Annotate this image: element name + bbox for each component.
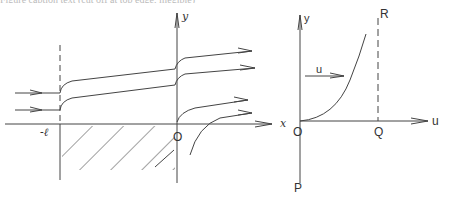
origin-label-left: O xyxy=(173,130,182,144)
point-r-label: R xyxy=(380,7,389,21)
arrow-lower-out xyxy=(240,65,255,70)
left-diagram xyxy=(5,13,272,183)
point-p-label: P xyxy=(294,181,302,195)
origin-label-right: O xyxy=(293,125,302,139)
streamline-below xyxy=(190,113,252,155)
streamline-origin xyxy=(177,100,248,122)
point-q-label: Q xyxy=(374,125,383,139)
velocity-label: u xyxy=(316,63,322,75)
arrow-upper-out xyxy=(238,48,252,53)
figure: x y O -ℓ y u O Q R P u xyxy=(0,0,450,201)
right-diagram xyxy=(298,15,428,183)
y-axis-label-right: y xyxy=(304,12,310,24)
y-axis-label-left: y xyxy=(181,10,189,23)
streamline-lower xyxy=(15,68,255,110)
streamline-upper xyxy=(15,51,252,93)
minus-l-label: -ℓ xyxy=(40,126,49,139)
hatched-region xyxy=(62,126,175,170)
x-axis-label: x xyxy=(280,117,287,130)
arrow-below xyxy=(238,110,252,115)
arrow-origin xyxy=(234,97,248,102)
u-axis-label: u xyxy=(432,114,439,128)
